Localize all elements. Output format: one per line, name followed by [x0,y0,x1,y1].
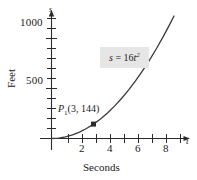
equation-callout: s = 16t2 [100,47,149,68]
point-label-coords: (3, 144) [68,103,100,114]
y-axis-symbol-s: s [49,6,52,14]
parabola-curve-smooth [52,16,175,139]
y-tick-label-500: 500 [26,75,43,86]
x-axis-symbol-t: t [186,137,189,146]
x-tick-label-8: 8 [163,143,169,154]
x-tick-label-6: 6 [135,143,141,154]
x-axis-title: Seconds [83,162,120,173]
y-axis-title: Feet [6,59,17,99]
equation-operator: = [113,52,124,63]
point-marker-p1 [91,122,96,127]
point-label-p1: P1(3, 144) [58,104,99,117]
equation-coefficient: 16 [124,52,134,63]
y-tick-label-1000: 1000 [20,17,43,28]
x-tick-label-2: 2 [79,143,85,154]
parabola-distance-time-figure: 1000 500 2 4 6 8 s t Seconds Feet P1(3, … [0,0,197,180]
x-tick-label-4: 4 [107,143,113,154]
equation-exponent: 2 [136,51,140,59]
